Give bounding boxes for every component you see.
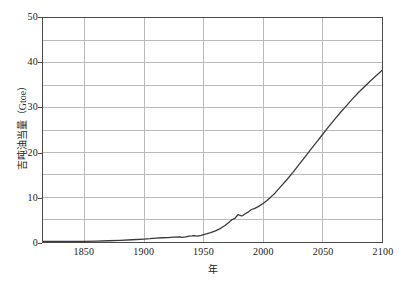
x-axis-tick-labels: 185019001950200020502100 [42,246,383,260]
x-tick-label: 1850 [62,246,106,257]
x-tick-label: 2100 [361,246,405,257]
x-axis-title: 年 [42,261,383,276]
x-tick-label: 2000 [241,246,285,257]
x-tick-label: 2050 [301,246,345,257]
chart-page: 01020304050 185019001950200020502100 年 吉… [0,0,408,284]
plot-area [42,17,383,243]
y-tick-label: 0 [2,238,38,248]
y-axis-title: 吉吨油当量（Gtoe） [14,51,29,201]
data-series-line [43,18,382,242]
x-tick-label: 1900 [122,246,166,257]
y-tick-mark [38,243,42,244]
x-tick-label: 1950 [182,246,226,257]
y-tick-label: 50 [2,12,38,22]
